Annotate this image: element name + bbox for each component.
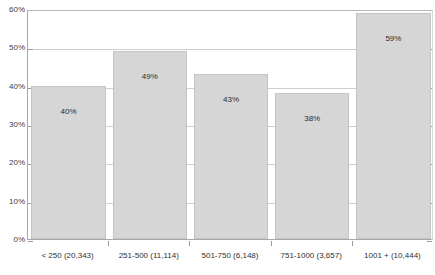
x-axis-tick-label: < 250 (20,343) [27, 252, 108, 260]
bar-value-label: 43% [194, 96, 268, 104]
bars-group: 40%49%43%38%59% [28, 11, 432, 239]
x-axis-tick-label: 751-1000 (3,657) [271, 252, 352, 260]
y-axis-tick-label: 10% [1, 198, 25, 206]
bar-slot: 38% [275, 11, 349, 239]
y-axis-tick-label: 50% [1, 44, 25, 52]
bar-slot: 49% [113, 11, 187, 239]
bar-slot: 59% [356, 11, 430, 239]
bar-slot: 40% [31, 11, 105, 239]
bar-slot: 43% [194, 11, 268, 239]
plot-area: 40%49%43%38%59% [27, 10, 433, 240]
y-axis: 0%10%20%30%40%50%60% [0, 0, 25, 275]
x-axis-tick-mark [271, 241, 272, 246]
bar-value-label: 59% [356, 35, 430, 43]
y-axis-tick-mark-right [427, 241, 432, 242]
y-axis-tick-label: 0% [1, 236, 25, 244]
bar[interactable] [356, 13, 430, 239]
bar-chart: 0%10%20%30%40%50%60% 40%49%43%38%59% < 2… [0, 0, 435, 275]
bar-value-label: 49% [113, 73, 187, 81]
bar-value-label: 40% [31, 108, 105, 116]
y-axis-tick-label: 20% [1, 159, 25, 167]
x-axis-tick-label: 251-500 (11,114) [108, 252, 189, 260]
y-axis-tick-label: 30% [1, 121, 25, 129]
x-axis: < 250 (20,343)251-500 (11,114)501-750 (6… [27, 252, 433, 272]
y-axis-tick-label: 60% [1, 6, 25, 14]
x-axis-tick-mark [108, 241, 109, 246]
x-axis-tick-label: 1001 + (10,444) [352, 252, 433, 260]
bar-value-label: 38% [275, 115, 349, 123]
y-axis-tick-label: 40% [1, 83, 25, 91]
x-axis-tick-mark [352, 241, 353, 246]
x-axis-tick-label: 501-750 (6,148) [189, 252, 270, 260]
y-axis-tick-mark [28, 241, 33, 242]
x-axis-tick-mark [189, 241, 190, 246]
